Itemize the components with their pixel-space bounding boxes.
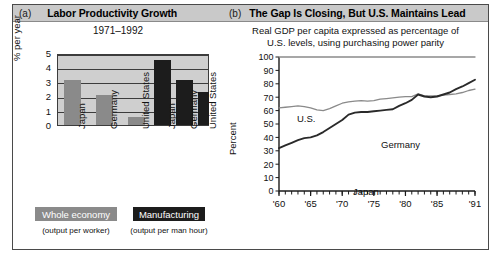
panel-b-subtitle-line2: U.S. levels, using purchasing power pari…: [223, 37, 488, 49]
figure-frame: (a) Labor Productivity Growth 1971–1992 …: [12, 4, 489, 250]
y-tick-label: 50: [263, 119, 273, 129]
y-tick-label: 90: [263, 66, 273, 76]
legend-sublabel: (output per man hour): [125, 226, 213, 235]
panel-a-y-axis-label: % per year: [11, 15, 22, 61]
figure-container: (a) Labor Productivity Growth 1971–1992 …: [0, 0, 497, 263]
series-line-germany: [279, 89, 475, 110]
x-tick-label: '60: [273, 198, 285, 209]
legend-sublabel: (output per worker): [27, 226, 125, 235]
panel-b: (b) The Gap Is Closing, But U.S. Maintai…: [223, 5, 488, 249]
y-tick-label: 1: [39, 106, 51, 117]
gridline: [58, 55, 208, 56]
panel-b-title: The Gap Is Closing, But U.S. Maintains L…: [245, 7, 465, 19]
y-tick-label: 2: [39, 91, 51, 102]
y-tick-label: 70: [263, 93, 273, 103]
panel-b-subtitle-line1: Real GDP per capita expressed as percent…: [223, 25, 488, 37]
panel-a-subtitle: 1971–1992: [13, 25, 223, 37]
y-tick-label: 10: [263, 173, 273, 183]
y-tick-label: 40: [263, 133, 273, 143]
category-label: United States: [140, 72, 151, 129]
y-tick-label: 5: [39, 48, 51, 59]
series-label-germany: Germany: [381, 139, 420, 150]
category-label: United States: [207, 72, 218, 129]
panel-a-title: Labor Productivity Growth: [35, 7, 177, 19]
panel-b-line-chart: 0102030405060708090100'60'65'70'75'80'85…: [253, 51, 481, 223]
panel-b-subtitle: Real GDP per capita expressed as percent…: [223, 25, 488, 49]
y-tick-label: 3: [39, 77, 51, 88]
y-tick-label: 30: [263, 146, 273, 156]
panel-b-header: (b) The Gap Is Closing, But U.S. Maintai…: [223, 5, 488, 22]
x-tick-label: '91: [469, 198, 481, 209]
x-tick-label: '75: [368, 198, 380, 209]
legend-swatch-manufacturing: Manufacturing: [133, 207, 205, 221]
y-tick-label: 80: [263, 79, 273, 89]
x-tick-label: '85: [431, 198, 443, 209]
legend-swatch-whole-economy: Whole economy: [35, 207, 117, 221]
y-tick-label: 60: [263, 106, 273, 116]
panel-b-y-axis-label: Percent: [227, 122, 238, 155]
y-tick-label: 4: [39, 62, 51, 73]
category-label: Germany: [188, 90, 199, 129]
panel-b-letter: (b): [223, 8, 245, 19]
y-tick-label: 20: [263, 160, 273, 170]
gridline: [58, 69, 208, 70]
category-label: Japan: [166, 103, 177, 129]
series-label-japan: Japan: [353, 186, 379, 197]
x-tick-label: '70: [336, 198, 348, 209]
category-label: Germany: [108, 90, 119, 129]
panel-b-plot-area: 0102030405060708090100'60'65'70'75'80'85…: [253, 51, 481, 223]
y-tick-label: 0: [268, 186, 273, 196]
x-tick-label: '65: [304, 198, 316, 209]
panel-a-header: (a) Labor Productivity Growth: [13, 5, 223, 22]
x-tick-label: '80: [399, 198, 411, 209]
y-tick-label: 100: [258, 52, 273, 62]
panel-a: (a) Labor Productivity Growth 1971–1992 …: [13, 5, 223, 249]
y-tick-label: 0: [39, 120, 51, 131]
series-label-us: U.S.: [297, 113, 315, 124]
category-label: Japan: [76, 103, 87, 129]
